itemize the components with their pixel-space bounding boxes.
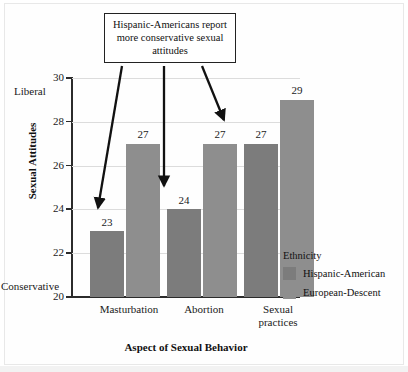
legend-item-hispanic-american[interactable]: Hispanic-American xyxy=(283,267,407,280)
bar-value-masturbation-european: 27 xyxy=(126,128,160,140)
legend: Ethnicity Hispanic-American European-Des… xyxy=(283,250,407,305)
y-tick-label-30: 30 xyxy=(40,71,64,83)
bar-value-abortion-european: 27 xyxy=(203,128,237,140)
legend-label-hispanic-american: Hispanic-American xyxy=(303,268,385,279)
y-axis-anchor-liberal: Liberal xyxy=(14,85,46,97)
legend-title: Ethnicity xyxy=(283,250,407,261)
annotation-line-2: more conservative sexual xyxy=(110,31,230,44)
y-axis-anchor-conservative: Conservative xyxy=(1,280,59,292)
gridline-28 xyxy=(72,122,300,123)
legend-swatch-european-descent xyxy=(283,286,296,299)
bar-abortion-hispanic[interactable] xyxy=(167,209,201,297)
bar-masturbation-hispanic[interactable] xyxy=(90,231,124,297)
x-tick-label-abortion: Abortion xyxy=(164,303,244,316)
annotation-line-1: Hispanic-Americans report xyxy=(110,18,230,31)
annotation-callout: Hispanic-Americans report more conservat… xyxy=(104,13,236,63)
plot-area xyxy=(72,78,300,297)
y-axis-title: Sexual Attitudes xyxy=(26,113,38,209)
bar-masturbation-european[interactable] xyxy=(126,144,160,297)
legend-label-european-descent: European-Descent xyxy=(303,287,381,298)
gridline-30 xyxy=(72,78,300,79)
x-tick-label-masturbation: Masturbation xyxy=(84,303,174,316)
annotation-line-3: attitudes xyxy=(110,44,230,57)
x-tick-label-sexual-practices-line2: practices xyxy=(238,316,318,329)
chart-page: 23 27 24 27 27 29 30 28 26 24 22 20 Libe… xyxy=(0,0,408,372)
y-tick-label-22: 22 xyxy=(40,246,64,258)
bar-abortion-european[interactable] xyxy=(203,144,237,297)
bar-value-sexual-practices-european: 29 xyxy=(280,84,314,96)
bar-sexual-practices-hispanic[interactable] xyxy=(244,144,278,297)
legend-swatch-hispanic-american xyxy=(283,267,296,280)
x-axis-title: Aspect of Sexual Behavior xyxy=(72,341,300,353)
x-tick-label-sexual-practices: Sexual practices xyxy=(238,303,318,329)
legend-item-european-descent[interactable]: European-Descent xyxy=(283,286,407,299)
bar-value-masturbation-hispanic: 23 xyxy=(90,216,124,228)
y-tick-labels: 30 28 26 24 22 20 xyxy=(38,0,64,372)
bar-value-abortion-hispanic: 24 xyxy=(167,194,201,206)
y-tick-label-28: 28 xyxy=(40,115,64,127)
y-tick-label-24: 24 xyxy=(40,202,64,214)
bar-value-sexual-practices-hispanic: 27 xyxy=(244,128,278,140)
y-tick-label-26: 26 xyxy=(40,159,64,171)
